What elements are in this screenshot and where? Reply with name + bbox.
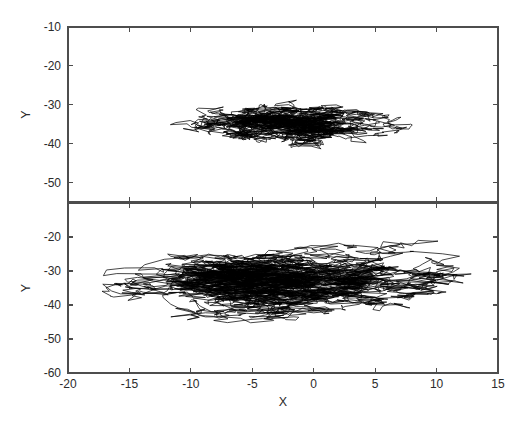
x-tick-label: 0 bbox=[310, 377, 317, 391]
y-tick-label: -60 bbox=[44, 366, 62, 380]
plot-canvas: -10-20-30-40-50Y -20-15-10-5051015-20-30… bbox=[0, 0, 527, 434]
bottom-y-axis-title: Y bbox=[19, 283, 33, 292]
y-tick-label: -50 bbox=[44, 332, 62, 346]
y-tick-label: -30 bbox=[44, 98, 62, 112]
y-tick-label: -30 bbox=[44, 264, 62, 278]
y-tick-label: -40 bbox=[44, 298, 62, 312]
y-tick-label: -20 bbox=[44, 230, 62, 244]
figure-background bbox=[0, 0, 527, 434]
y-tick-label: -50 bbox=[44, 176, 62, 190]
x-tick-label: -10 bbox=[182, 377, 200, 391]
figure-container: -10-20-30-40-50Y -20-15-10-5051015-20-30… bbox=[0, 0, 527, 434]
x-tick-label: -5 bbox=[247, 377, 258, 391]
top-y-axis-title: Y bbox=[19, 110, 33, 119]
x-tick-label: 5 bbox=[372, 377, 379, 391]
bottom-x-axis-title: X bbox=[279, 395, 288, 409]
x-tick-label: 15 bbox=[491, 377, 505, 391]
x-tick-label: 10 bbox=[430, 377, 444, 391]
y-tick-label: -10 bbox=[44, 20, 62, 34]
x-tick-label: -20 bbox=[59, 377, 77, 391]
y-tick-label: -40 bbox=[44, 137, 62, 151]
x-tick-label: -15 bbox=[121, 377, 139, 391]
y-tick-label: -20 bbox=[44, 59, 62, 73]
